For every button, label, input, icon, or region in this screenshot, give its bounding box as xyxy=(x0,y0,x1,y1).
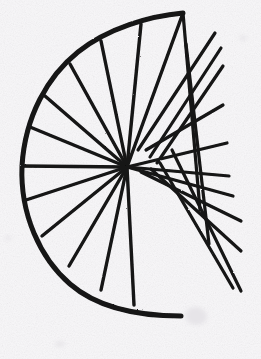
spoke-7 xyxy=(22,166,127,167)
figure-container: Hand-drawn radiant fan construction A sc… xyxy=(0,0,261,359)
paper-grain-overlay xyxy=(0,0,261,359)
line-drawing-canvas xyxy=(0,0,261,359)
